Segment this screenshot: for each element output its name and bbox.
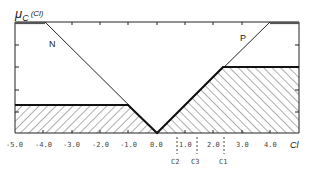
label-c1: C1 xyxy=(219,158,227,166)
svg-text:0.0: 0.0 xyxy=(150,141,163,149)
label-n: N xyxy=(49,39,56,49)
label-c2: C2 xyxy=(171,158,179,166)
y-axis-title: μC(Cl) xyxy=(14,6,44,23)
label-p: P xyxy=(240,33,246,43)
x-tick-labels: -5.0 -4.0 -3.0 -2.0 -1.0 0.0 1.0 2.0 3.0… xyxy=(6,141,277,149)
label-c3: C3 xyxy=(191,158,199,166)
svg-text:4.0: 4.0 xyxy=(264,141,277,149)
svg-text:-5.0: -5.0 xyxy=(6,141,23,149)
svg-text:-3.0: -3.0 xyxy=(63,141,80,149)
x-axis-title: Cl xyxy=(290,140,299,150)
left-ticks xyxy=(15,45,19,112)
svg-text:-4.0: -4.0 xyxy=(35,141,52,149)
svg-text:2.0: 2.0 xyxy=(207,141,220,149)
svg-text:-1.0: -1.0 xyxy=(120,141,137,149)
svg-text:-2.0: -2.0 xyxy=(92,141,109,149)
membership-chart: μC(Cl) N P -5.0 -4.0 -3.0 -2.0 -1.0 0.0 … xyxy=(0,0,309,172)
svg-text:3.0: 3.0 xyxy=(236,141,249,149)
svg-text:1.0: 1.0 xyxy=(179,141,192,149)
hatched-region xyxy=(15,67,299,133)
